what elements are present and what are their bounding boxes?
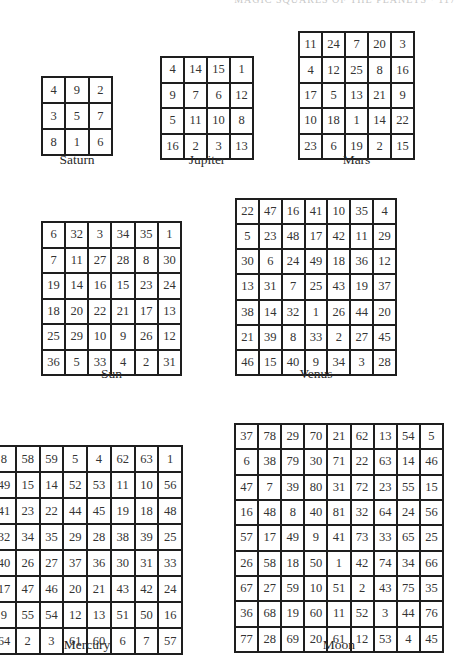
- grid-cell: 16: [282, 199, 305, 224]
- grid-cell: 3: [42, 103, 65, 129]
- grid-row: 1747462021434224: [0, 576, 182, 602]
- grid-cell: 62: [351, 424, 374, 449]
- grid-cell: 51: [111, 602, 135, 628]
- grid-cell: 14: [65, 273, 88, 299]
- grid-cell: 11: [350, 224, 373, 249]
- grid-cell: 9: [391, 83, 414, 108]
- grid-cell: 13: [236, 274, 259, 299]
- grid-row: 632334351: [42, 222, 181, 248]
- grid-cell: 34: [16, 524, 40, 550]
- grid-cell: 15: [111, 273, 134, 299]
- grid-cell: 2: [351, 576, 374, 601]
- grid-cell: 27: [88, 248, 111, 274]
- grid-row: 17513219: [299, 83, 414, 108]
- magic-square-grid: 1124720341225816175132191018114222361921…: [298, 31, 415, 160]
- grid-cell: 21: [87, 576, 111, 602]
- magic-square-mars: 1124720341225816175132191018114222361921…: [298, 31, 415, 160]
- grid-cell: 17: [305, 224, 328, 249]
- grid-cell: 16: [391, 57, 414, 82]
- grid-cell: 30: [111, 550, 135, 576]
- grid-cell: 33: [374, 525, 397, 550]
- grid-cell: 11: [299, 32, 322, 57]
- grid-row: 858595462631: [0, 446, 182, 472]
- grid-cell: 66: [420, 551, 443, 576]
- grid-cell: 37: [373, 274, 396, 299]
- grid-cell: 12: [322, 57, 345, 82]
- grid-cell: 45: [87, 498, 111, 524]
- grid-cell: 36: [235, 601, 258, 626]
- grid-row: 2247164110354: [236, 199, 396, 224]
- grid-cell: 31: [327, 475, 350, 500]
- grid-cell: 5: [420, 424, 443, 449]
- grid-cell: 22: [40, 498, 64, 524]
- grid-cell: 3: [374, 601, 397, 626]
- grid-cell: 8: [135, 248, 158, 274]
- grid-cell: 48: [258, 500, 281, 525]
- grid-cell: 67: [235, 576, 258, 601]
- grid-cell: 1: [327, 551, 350, 576]
- grid-row: 7112728830: [42, 248, 181, 274]
- grid-cell: 25: [345, 57, 368, 82]
- grid-cell: 10: [304, 576, 327, 601]
- grid-cell: 73: [351, 525, 374, 550]
- grid-row: 11247203: [299, 32, 414, 57]
- grid-cell: 49: [0, 472, 16, 498]
- grid-cell: 19: [350, 274, 373, 299]
- grid-cell: 8: [368, 57, 391, 82]
- grid-cell: 46: [40, 576, 64, 602]
- grid-cell: 32: [351, 500, 374, 525]
- grid-cell: 15: [16, 472, 40, 498]
- grid-cell: 41: [327, 525, 350, 550]
- grid-cell: 9: [65, 77, 88, 103]
- grid-cell: 21: [236, 325, 259, 350]
- grid-cell: 25: [420, 525, 443, 550]
- grid-cell: 43: [111, 576, 135, 602]
- grid-cell: 11: [65, 248, 88, 274]
- grid-cell: 50: [135, 602, 159, 628]
- grid-cell: 38: [111, 524, 135, 550]
- grid-cell: 10: [88, 324, 111, 350]
- grid-cell: 80: [304, 475, 327, 500]
- grid-cell: 24: [158, 576, 182, 602]
- grid-cell: 22: [88, 299, 111, 325]
- grid-cell: 16: [88, 273, 111, 299]
- grid-row: 3062449183612: [236, 249, 396, 274]
- grid-cell: 44: [397, 601, 420, 626]
- grid-cell: 34: [111, 222, 134, 248]
- grid-cell: 23: [16, 498, 40, 524]
- grid-row: 511108: [161, 108, 253, 134]
- grid-cell: 52: [351, 601, 374, 626]
- grid-row: 36681960115234476: [235, 601, 443, 626]
- grid-cell: 26: [135, 324, 158, 350]
- grid-row: 414151: [161, 57, 253, 83]
- grid-cell: 25: [305, 274, 328, 299]
- grid-cell: 39: [259, 325, 282, 350]
- grid-cell: 22: [236, 199, 259, 224]
- grid-cell: 4: [42, 77, 65, 103]
- grid-cell: 29: [373, 224, 396, 249]
- grid-cell: 50: [304, 551, 327, 576]
- grid-row: 67275910512437535: [235, 576, 443, 601]
- grid-cell: 9: [161, 83, 184, 109]
- grid-cell: 5: [161, 108, 184, 134]
- grid-cell: 41: [305, 199, 328, 224]
- grid-cell: 34: [397, 551, 420, 576]
- grid-cell: 60: [304, 601, 327, 626]
- grid-cell: 17: [135, 299, 158, 325]
- grid-row: 97612: [161, 83, 253, 109]
- grid-cell: 38: [258, 449, 281, 474]
- grid-cell: 54: [397, 424, 420, 449]
- grid-cell: 14: [259, 300, 282, 325]
- grid-cell: 20: [368, 32, 391, 57]
- grid-cell: 35: [135, 222, 158, 248]
- grid-cell: 32: [65, 222, 88, 248]
- grid-cell: 20: [63, 576, 87, 602]
- grid-cell: 57: [235, 525, 258, 550]
- running-page-header: MAGIC SQUARES OF THE PLANETS · 117: [234, 0, 456, 5]
- grid-cell: 42: [135, 576, 159, 602]
- grid-cell: 12: [373, 249, 396, 274]
- grid-cell: 18: [281, 551, 304, 576]
- grid-cell: 38: [236, 300, 259, 325]
- grid-cell: 15: [207, 57, 230, 83]
- grid-cell: 27: [40, 550, 64, 576]
